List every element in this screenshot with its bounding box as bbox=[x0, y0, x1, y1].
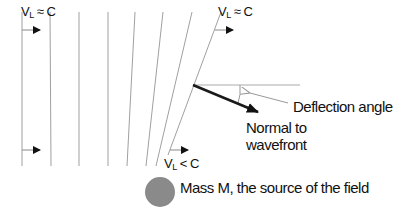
normal-label-line2: wavefront bbox=[246, 136, 307, 153]
angle-arc bbox=[238, 85, 240, 103]
wavefront-line bbox=[146, 12, 163, 166]
mass-label: Mass M, the source of the field bbox=[180, 179, 369, 196]
velocity-label-right: VL ≈ C bbox=[218, 4, 252, 20]
deflection-angle-label: Deflection angle bbox=[293, 98, 393, 115]
velocity-label-left: VL ≈ C bbox=[21, 4, 55, 20]
mass-circle bbox=[145, 177, 175, 207]
normal-arrow bbox=[193, 85, 258, 112]
deflection-pointer bbox=[250, 93, 288, 103]
wavefront-lines bbox=[22, 12, 221, 166]
wavefront-line bbox=[168, 12, 221, 155]
wavefront-line bbox=[127, 12, 135, 166]
normal-label-line1: Normal to bbox=[246, 119, 307, 136]
velocity-label-near-mass: VL < C bbox=[164, 156, 199, 172]
wavefront-line bbox=[50, 12, 51, 166]
wavefront-line bbox=[156, 12, 192, 166]
